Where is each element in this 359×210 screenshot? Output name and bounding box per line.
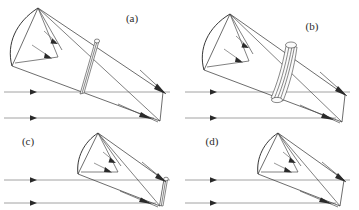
panel-label-b: (b) [306, 20, 319, 33]
inner-flow-arrowhead-lower [235, 57, 243, 63]
cone-apex-edge [160, 92, 163, 121]
cone-interior-generator [38, 8, 160, 121]
inner-throat-outline [81, 133, 118, 172]
inner-flow-arrowhead-lower [284, 167, 292, 173]
deflected-arrowhead-upper [335, 86, 347, 96]
inner-flow-arrowhead-upper [109, 158, 117, 164]
cone-apex-edge [342, 95, 345, 122]
panel-a-cone [10, 8, 163, 121]
inner-throat-edge [38, 8, 62, 50]
panel-a-inner-throat [15, 8, 62, 63]
ray-arrowhead-upper [30, 177, 37, 183]
panel-c-band [160, 177, 169, 206]
panel-b-band [271, 42, 297, 103]
cone-generator-top [98, 133, 164, 180]
panel-label-c: (c) [22, 135, 35, 148]
ray-arrowhead-lower [30, 200, 37, 206]
deflected-arrowhead-upper [154, 84, 166, 95]
band-midline [82, 42, 97, 94]
cone-generator-top [278, 133, 344, 180]
inner-flow-arrowhead-lower [104, 167, 112, 173]
inner-throat-edge [230, 14, 253, 54]
panel-d-deflected-rays [300, 162, 346, 207]
panel-label-a: (a) [126, 12, 139, 25]
cone-generator-bottom [258, 174, 340, 206]
ray-arrowhead-lower [210, 115, 217, 121]
deflected-arrowhead-lower [321, 113, 334, 120]
cone-mouth-chord [12, 8, 38, 66]
inner-flow-arrowhead-lower [44, 53, 52, 59]
panel-d: (d) [185, 133, 350, 207]
cone-generator-bottom [78, 174, 160, 206]
ray-arrowhead-lower [210, 200, 217, 206]
panel-c-deflected-rays [120, 162, 166, 207]
band-top-cap [286, 42, 297, 48]
ray-arrowhead-upper [210, 89, 217, 95]
cone-generator-top [38, 8, 163, 92]
panel-b: (b) [185, 14, 350, 123]
inner-flow-arrowhead-upper [289, 158, 297, 164]
band-bottom-cap [272, 97, 283, 102]
inner-throat-outline [261, 133, 298, 172]
ray-arrowhead-lower [30, 115, 37, 121]
ray-arrowhead-upper [210, 177, 217, 183]
cone-mouth-chord [204, 14, 230, 70]
ray-arrowhead-upper [30, 89, 37, 95]
deflected-ray-lower [118, 104, 158, 122]
band-top-cap [94, 39, 99, 43]
deflected-ray-lower [120, 191, 158, 207]
cone-apex-edge [340, 180, 344, 206]
panel-label-d: (d) [206, 135, 219, 148]
panel-b-cone [202, 14, 345, 122]
panel-a-band [80, 39, 100, 94]
inner-throat-outline [15, 8, 58, 63]
panel-a: (a) [4, 8, 170, 122]
panel-c: (c) [4, 133, 170, 207]
inner-throat-outline [207, 14, 249, 67]
figure-canvas: (a) [0, 0, 359, 210]
deflected-ray-lower [300, 191, 338, 207]
panel-b-inner-throat [207, 14, 253, 67]
figure-container: (a) [0, 0, 359, 210]
